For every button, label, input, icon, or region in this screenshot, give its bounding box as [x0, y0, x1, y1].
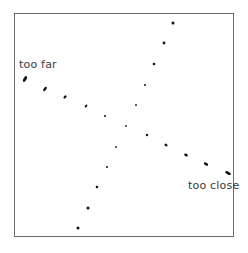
- dot-marker: [203, 162, 208, 167]
- dot-marker: [153, 63, 156, 66]
- dot-marker: [184, 153, 189, 157]
- dot-marker: [144, 84, 146, 86]
- dot-marker: [172, 22, 175, 25]
- too-far-label: too far: [19, 58, 57, 71]
- dot-marker: [106, 166, 108, 168]
- dot-marker: [135, 104, 137, 106]
- descending-dot-series: [22, 75, 231, 175]
- dot-marker: [96, 186, 99, 189]
- dot-marker: [77, 227, 80, 230]
- dot-marker: [22, 75, 28, 82]
- dot-marker: [115, 146, 117, 148]
- dot-plot: [0, 0, 248, 253]
- too-close-label: too close: [188, 179, 239, 192]
- dot-marker: [225, 170, 232, 176]
- dot-marker: [87, 207, 90, 210]
- dot-marker: [42, 86, 47, 92]
- dot-marker: [63, 95, 67, 99]
- dot-marker: [163, 42, 166, 45]
- dot-marker: [84, 104, 88, 108]
- dot-marker: [125, 125, 127, 127]
- dot-marker: [164, 143, 168, 147]
- dot-marker: [104, 115, 106, 117]
- dot-marker: [146, 134, 148, 136]
